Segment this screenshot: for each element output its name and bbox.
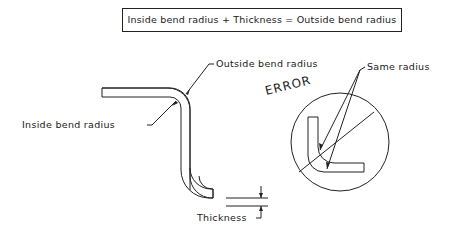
same-radius-label: Same radius <box>367 61 430 72</box>
thickness-label: Thickness <box>197 212 247 223</box>
inside-bend-radius-label: Inside bend radius <box>22 119 115 130</box>
correct-bend-part <box>102 88 213 198</box>
outside-bend-radius-label: Outside bend radius <box>216 58 318 69</box>
error-detail-circle <box>291 93 389 191</box>
